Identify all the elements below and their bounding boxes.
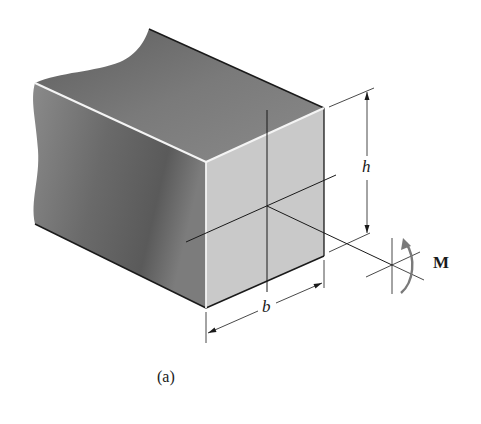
b-arrowhead-left-icon [208,328,217,334]
b-dimension-line-left [208,311,258,333]
beam-diagram [0,0,481,424]
moment-label: M [433,253,449,273]
width-label: b [262,297,271,317]
h-arrowhead-top-icon [365,92,370,100]
h-arrowhead-bottom-icon [365,225,370,233]
moment-axis-extension [392,265,424,280]
b-arrowhead-right-icon [314,283,323,289]
h-extension-bottom [329,233,370,252]
figure-caption: (a) [157,368,175,386]
height-label: h [362,157,371,177]
moment-arc-arrow-icon [401,243,412,293]
